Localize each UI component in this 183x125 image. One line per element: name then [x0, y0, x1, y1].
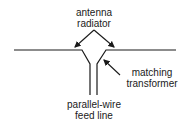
antenna-radiator-label-line1: antenna	[68, 7, 120, 18]
antenna-radiator-label: antenna radiator	[68, 7, 120, 29]
radiator-arrow-right	[94, 30, 114, 47]
matching-transformer-label-line2: transformer	[124, 78, 180, 89]
feed-line-label-line2: feed line	[63, 110, 125, 121]
feed-line-label-line1: parallel-wire	[63, 99, 125, 110]
matching-transformer-label: matching transformer	[124, 67, 180, 89]
antenna-left-wire	[14, 50, 90, 95]
radiator-arrow-left	[75, 30, 94, 47]
transformer-arrow	[104, 60, 120, 75]
matching-transformer-label-line1: matching	[124, 67, 180, 78]
feed-line-label: parallel-wire feed line	[63, 99, 125, 121]
antenna-radiator-label-line2: radiator	[68, 18, 120, 29]
